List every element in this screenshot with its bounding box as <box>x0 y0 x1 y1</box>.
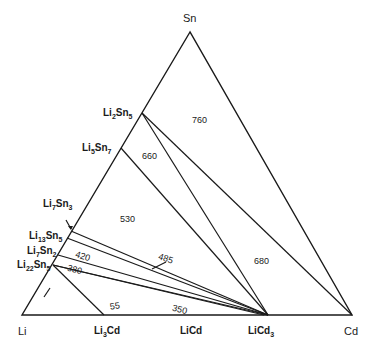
region-label: 380 <box>66 263 83 277</box>
region-label: 760 <box>192 115 207 125</box>
tick-mark <box>44 288 50 297</box>
compound-label-li7sn3: Li7Sn3 <box>43 198 73 211</box>
vertex-label-cd: Cd <box>344 325 358 337</box>
region-label: 660 <box>142 151 157 161</box>
tie-line-li2sn5-cd <box>142 113 352 315</box>
region-label: 55 <box>109 300 120 311</box>
compound-label-licd3: LiCd3 <box>248 325 274 338</box>
region-label: 530 <box>120 214 135 224</box>
compound-label-li3cd: Li3Cd <box>94 325 120 338</box>
vertex-label-li: Li <box>18 325 27 337</box>
tie-line-li5sn7-licd3 <box>121 148 268 315</box>
tie-line-li13sn5-licd3-a <box>71 231 268 315</box>
compound-label-li13sn5: Li13Sn5 <box>29 230 62 243</box>
ternary-diagram: Sn Li Cd Li2Sn5 Li5Sn7 Li7Sn3 Li13Sn5 Li… <box>0 0 380 355</box>
compound-label-licd: LiCd <box>180 325 202 336</box>
region-label: 350 <box>171 303 188 316</box>
tie-line-li13sn5-licd3-b <box>67 238 268 315</box>
compound-label-li7sn2: Li7Sn2 <box>27 245 57 258</box>
region-label: 680 <box>254 256 269 266</box>
region-label: 485 <box>157 251 174 265</box>
compound-label-li5sn7: Li5Sn7 <box>82 142 112 155</box>
vertex-label-sn: Sn <box>183 12 196 24</box>
compound-label-li22sn5: Li22Sn5 <box>17 259 50 272</box>
compound-label-li2sn5: Li2Sn5 <box>103 107 133 120</box>
region-label: 420 <box>74 249 91 263</box>
